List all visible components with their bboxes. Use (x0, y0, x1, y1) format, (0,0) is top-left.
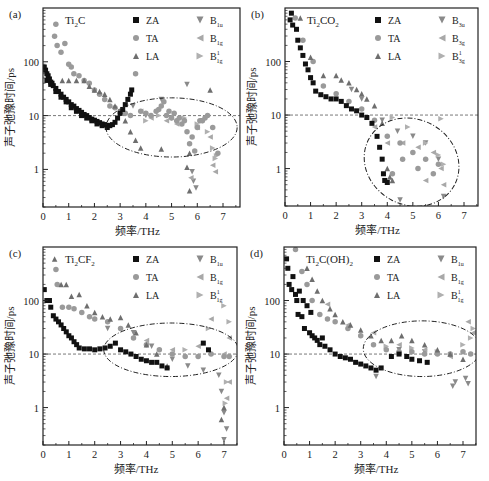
data-point (79, 113, 84, 118)
x-tick-label: 7 (220, 211, 225, 222)
data-point (76, 292, 82, 298)
data-point (320, 298, 326, 304)
panel-c: (c)01234567110100频率/THz声子弛豫时间/psTi2CF2ZA… (3, 247, 238, 475)
y-axis-label: 声子弛豫时间/ps (244, 307, 257, 386)
x-tick-label: 2 (334, 210, 339, 221)
legend-marker-ta (133, 35, 139, 41)
highlight-ellipse (363, 321, 481, 377)
data-point (113, 120, 118, 125)
data-point (92, 310, 98, 316)
data-point (133, 71, 139, 77)
data-point (397, 140, 403, 146)
data-point (108, 344, 113, 349)
data-point (327, 306, 333, 312)
data-point (409, 357, 414, 362)
legend-marker-za (374, 256, 380, 262)
data-point (423, 156, 429, 162)
data-point (226, 354, 232, 360)
data-point (397, 197, 403, 203)
data-point (221, 410, 227, 416)
legend: ZATALAB1uB1gB11g (133, 15, 223, 64)
data-point (224, 379, 230, 385)
data-point (343, 355, 348, 360)
data-point (95, 121, 100, 126)
series-za (42, 65, 134, 131)
data-point (422, 351, 428, 357)
data-point (377, 145, 382, 150)
data-point (210, 125, 216, 131)
data-point (184, 164, 190, 170)
data-point (138, 109, 144, 115)
data-point (224, 426, 230, 432)
data-point (187, 141, 193, 147)
data-point (438, 116, 444, 122)
x-tick-label: 7 (460, 449, 465, 460)
legend-marker-za (133, 256, 139, 262)
data-point (317, 342, 322, 347)
data-point (381, 171, 386, 176)
x-tick-label: 5 (410, 210, 415, 221)
data-point (165, 365, 170, 370)
legend-label: LA (146, 290, 160, 301)
y-tick-label: 10 (271, 110, 282, 121)
x-tick-label: 6 (195, 211, 200, 222)
x-tick-label: 2 (333, 449, 338, 460)
data-point (405, 124, 411, 130)
data-point (300, 53, 305, 58)
x-tick-label: 1 (66, 449, 71, 460)
legend: ZATALAB1uB1gB11g (133, 254, 223, 303)
x-tick-label: 4 (385, 210, 391, 221)
data-point (450, 384, 456, 390)
x-tick-label: 7 (461, 210, 466, 221)
data-point (139, 357, 144, 362)
data-point (169, 115, 175, 121)
data-point (149, 360, 154, 365)
data-point (69, 294, 75, 300)
panel-label: (b) (251, 8, 264, 21)
data-point (189, 169, 195, 175)
y-tick-label: 1 (276, 164, 281, 175)
data-point (431, 150, 437, 156)
data-point (299, 314, 304, 319)
legend-marker-b3u (439, 17, 446, 24)
data-point (125, 97, 130, 102)
data-point (294, 298, 299, 303)
data-point (62, 41, 68, 47)
material-title: Ti2C(OH)2 (306, 253, 353, 268)
data-point (410, 150, 416, 156)
data-point (171, 111, 177, 117)
legend-label: B3u (452, 15, 465, 28)
legend-marker-za (133, 17, 139, 23)
data-point (154, 360, 159, 365)
data-point (102, 91, 108, 97)
data-point (118, 326, 124, 332)
data-point (107, 103, 113, 109)
data-point (105, 326, 111, 332)
data-point (79, 310, 85, 316)
data-point (415, 145, 421, 151)
legend-marker-b11g (197, 53, 204, 60)
legend-label: B1u (210, 254, 223, 267)
data-point (359, 96, 365, 102)
legend-label: B3g (452, 33, 465, 46)
data-point (113, 341, 118, 346)
data-point (389, 338, 395, 344)
data-point (301, 298, 306, 303)
data-point (298, 45, 303, 50)
data-point (129, 87, 134, 92)
data-point (300, 37, 306, 43)
data-point (354, 87, 360, 93)
data-point (66, 304, 72, 310)
data-point (332, 319, 338, 325)
legend-marker-b11g (197, 292, 204, 299)
x-tick-label: 4 (143, 211, 149, 222)
legend-marker-la (374, 292, 380, 298)
data-point (144, 358, 149, 363)
data-point (69, 105, 74, 110)
plot-area (42, 21, 240, 193)
data-point (465, 319, 471, 325)
legend-marker-b3g (439, 35, 446, 42)
data-point (333, 352, 338, 357)
data-point (320, 335, 325, 340)
data-point (363, 363, 368, 368)
